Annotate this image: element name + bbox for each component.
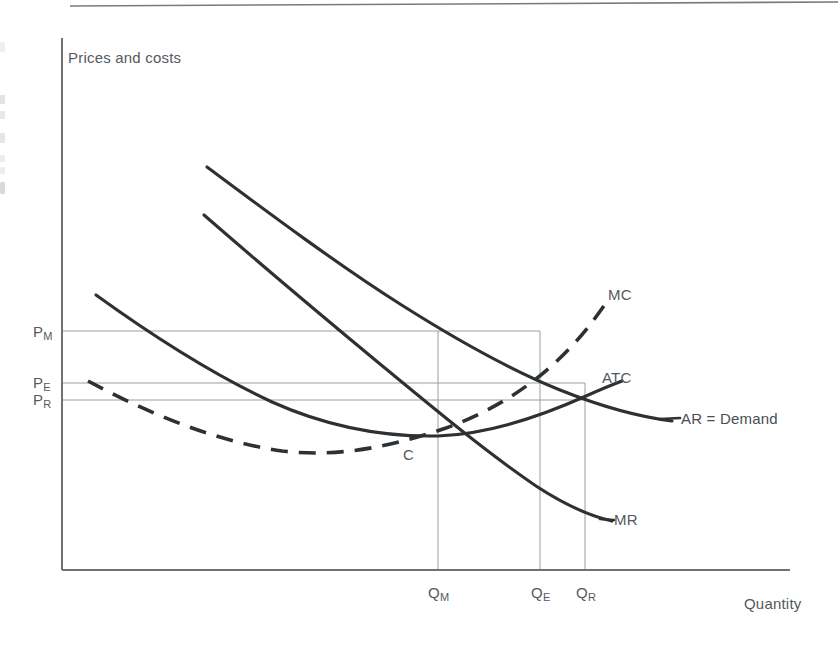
page-top-rule [70,2,838,6]
quantity-label-efficient-sub: E [543,591,550,603]
quantity-label-monopoly: QM [428,585,449,603]
y-axis-title: Prices and costs [68,50,181,65]
label-leaders [600,418,680,520]
point-label-c: C [403,447,414,462]
curve-mr [204,215,612,521]
curve-label-ar-demand: AR = Demand [681,411,778,426]
price-label-regulated: PR [33,392,51,410]
margin-artifact [0,42,5,52]
price-label-efficient-base: P [33,374,43,391]
margin-artifact [0,133,5,143]
quantity-label-monopoly-base: Q [428,584,440,601]
margin-artifact [0,95,5,104]
quantity-label-efficient-base: Q [531,584,543,601]
quantity-label-regulated-base: Q [576,584,588,601]
curve-atc [96,295,622,436]
economics-diagram-figure: Prices and costs Quantity PM PE PR QM QE… [0,0,838,649]
price-label-regulated-base: P [33,391,43,408]
quantity-label-regulated: QR [576,585,596,603]
curve-label-atc: ATC [602,370,632,385]
x-axis-title: Quantity [744,596,801,611]
curve-mc [88,303,606,453]
price-label-monopoly: PM [33,324,52,342]
leader-ar-demand [660,418,680,419]
margin-artifact [0,167,5,174]
price-label-monopoly-base: P [33,323,43,340]
curve-label-mc: MC [608,287,632,302]
diagram-canvas [0,0,838,649]
margin-artifact [0,155,5,162]
margin-artifact [0,182,5,194]
curve-label-mr: MR [614,512,638,527]
margin-artifact [0,111,5,119]
quantity-label-monopoly-sub: M [440,591,449,603]
leader-mr [600,519,614,520]
quantity-label-regulated-sub: R [588,591,596,603]
quantity-label-efficient: QE [531,585,550,603]
price-label-monopoly-sub: M [43,330,52,342]
chart-axes [62,38,790,570]
price-label-regulated-sub: R [43,398,51,410]
